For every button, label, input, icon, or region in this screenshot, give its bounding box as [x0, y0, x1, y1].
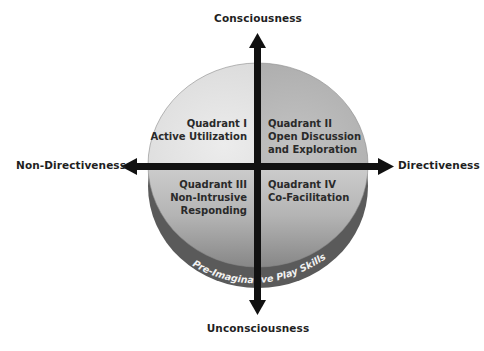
- quadrant-title: Quadrant III: [170, 178, 247, 191]
- quadrant-diagram: Pre-Imaginative Play Skills: [0, 0, 484, 351]
- arrow-down-icon: [249, 300, 266, 315]
- quadrant-title: Quadrant I: [150, 117, 247, 130]
- quadrant-description: Active Utilization: [150, 130, 247, 143]
- quadrant-description: Open Discussion: [268, 130, 361, 143]
- axis-label-unconsciousness: Unconsciousness: [0, 322, 484, 334]
- quadrant-I-label: Quadrant I Active Utilization: [150, 117, 247, 143]
- axis-label-consciousness: Consciousness: [0, 12, 484, 24]
- quadrant-title: Quadrant IV: [268, 178, 349, 191]
- quadrant-description: Co-Facilitation: [268, 191, 349, 204]
- quadrant-IV-label: Quadrant IV Co-Facilitation: [268, 178, 349, 204]
- quadrant-description: Non-Intrusive: [170, 191, 247, 204]
- quadrant-description: Responding: [170, 204, 247, 217]
- arrow-right-icon: [378, 158, 394, 175]
- axis-label-directiveness: Directiveness: [398, 159, 480, 171]
- quadrant-II-label: Quadrant II Open Discussion and Explorat…: [268, 117, 361, 156]
- quadrant-title: Quadrant II: [268, 117, 361, 130]
- axis-label-non-directiveness: Non-Directiveness: [16, 159, 126, 171]
- quadrant-description: and Exploration: [268, 143, 361, 156]
- arrow-up-icon: [249, 33, 266, 48]
- quadrant-I-area: [140, 60, 260, 166]
- quadrant-III-label: Quadrant III Non-Intrusive Responding: [170, 178, 247, 217]
